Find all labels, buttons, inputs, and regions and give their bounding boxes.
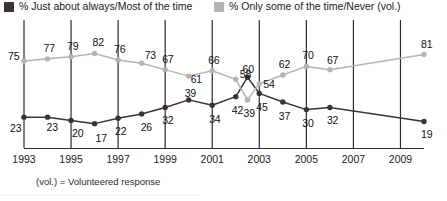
data-label-light: 67 (327, 55, 338, 66)
data-point (304, 107, 309, 112)
data-label-light: 75 (8, 51, 19, 62)
data-point (92, 121, 97, 126)
data-point (233, 77, 238, 82)
data-point (68, 118, 73, 123)
data-point (21, 58, 26, 63)
data-point (327, 105, 332, 110)
series-line-light (24, 53, 424, 99)
x-tick-2009: 2009 (389, 153, 412, 165)
x-tick-1997: 1997 (106, 153, 129, 165)
data-label-light: 70 (302, 50, 313, 61)
legend-swatch-dark-icon (4, 2, 14, 12)
plot-area: 2323201722263239344260453730321975777982… (0, 20, 447, 148)
data-label-dark: 32 (327, 115, 338, 126)
footnote-volunteered-response: (vol.) = Volunteered response (36, 176, 160, 187)
data-point (68, 54, 73, 59)
data-label-light: 67 (162, 54, 173, 65)
data-label-dark: 34 (209, 114, 220, 125)
data-point (115, 116, 120, 121)
legend-item-some-never: % Only some of the time/Never (vol.) (214, 1, 401, 12)
data-label-dark: 17 (96, 133, 107, 144)
x-axis-line (24, 148, 424, 149)
chart-container: % Just about always/Most of the time % O… (0, 0, 447, 201)
data-label-dark: 23 (10, 123, 21, 134)
data-point (115, 57, 120, 62)
data-point (327, 67, 332, 72)
data-label-light: 73 (145, 50, 156, 61)
data-label-light: 61 (191, 74, 202, 85)
data-label-light: 54 (263, 79, 274, 90)
data-label-dark: 37 (279, 111, 290, 122)
legend-swatch-light-icon (214, 2, 224, 12)
data-point (421, 119, 426, 124)
data-point (280, 99, 285, 104)
data-point (21, 114, 26, 119)
data-label-dark: 42 (232, 105, 243, 116)
x-tick-2001: 2001 (201, 153, 224, 165)
legend-item-always-most: % Just about always/Most of the time (4, 1, 192, 12)
data-label-light: 79 (67, 41, 78, 52)
data-label-dark: 22 (115, 126, 126, 137)
data-point (304, 64, 309, 69)
data-point (45, 56, 50, 61)
data-label-light: 58 (240, 69, 251, 80)
data-label-light: 76 (114, 44, 125, 55)
data-label-dark: 23 (47, 122, 58, 133)
data-label-dark: 26 (141, 122, 152, 133)
x-axis: 199319951997199920012003200520072009 (0, 148, 447, 172)
data-point (139, 111, 144, 116)
data-label-light: 82 (93, 37, 104, 48)
data-label-light: 81 (421, 39, 432, 50)
x-tick-2007: 2007 (342, 153, 365, 165)
x-tick-1995: 1995 (59, 153, 82, 165)
legend-label-always-most: % Just about always/Most of the time (19, 1, 192, 12)
data-point (210, 103, 215, 108)
data-point (245, 97, 250, 102)
data-point (421, 52, 426, 57)
data-label-dark: 20 (72, 128, 83, 139)
data-label-dark: 39 (185, 88, 196, 99)
data-point (210, 68, 215, 73)
data-label-dark: 30 (302, 118, 313, 129)
data-label-light: 62 (279, 59, 290, 70)
legend-label-some-never: % Only some of the time/Never (vol.) (229, 1, 401, 12)
data-label-light: 66 (208, 55, 219, 66)
data-label-dark: 19 (421, 129, 432, 140)
data-point (257, 91, 262, 96)
data-label-dark: 45 (256, 102, 267, 113)
data-label-light: 77 (44, 43, 55, 54)
data-label-light: 39 (244, 108, 255, 119)
data-point (45, 114, 50, 119)
x-tick-2003: 2003 (248, 153, 271, 165)
data-point (233, 94, 238, 99)
bottom-divider (0, 195, 200, 196)
data-point (162, 105, 167, 110)
data-point (92, 51, 97, 56)
x-tick-1999: 1999 (153, 153, 176, 165)
series-line-dark (24, 77, 424, 123)
data-point (162, 67, 167, 72)
data-label-dark: 32 (162, 115, 173, 126)
chart-legend: % Just about always/Most of the time % O… (0, 0, 447, 20)
data-point (280, 72, 285, 77)
x-tick-1993: 1993 (12, 153, 35, 165)
x-tick-2005: 2005 (295, 153, 318, 165)
data-point (139, 60, 144, 65)
data-point (257, 81, 262, 86)
